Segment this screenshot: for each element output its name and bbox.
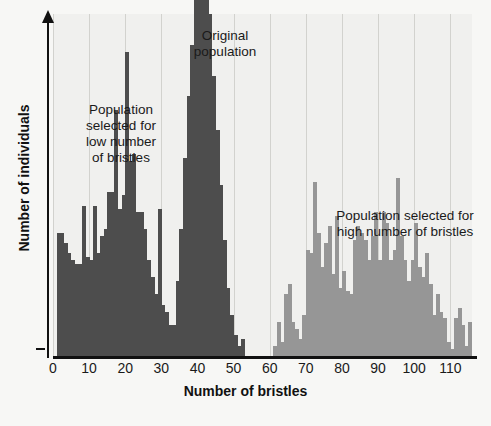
x-tick-label-80: 80 [334,360,350,376]
x-tick-label-90: 90 [370,360,386,376]
x-tick-label-110: 110 [439,360,461,376]
bar [241,339,245,356]
gridline-x-50 [234,14,235,356]
y-axis-arrow-head [42,10,54,23]
plot-area [53,14,472,356]
x-tick-label-50: 50 [226,360,242,376]
gridline-x-110 [450,14,451,356]
gridline-x-60 [270,14,271,356]
annotation-original-population: Original population [163,28,287,60]
bar [468,322,472,356]
x-tick-label-0: 0 [49,360,57,376]
x-tick-label-70: 70 [298,360,314,376]
x-tick-label-100: 100 [403,360,426,376]
x-tick-label-20: 20 [117,360,133,376]
x-axis-title: Number of bristles [0,383,491,399]
gridline-x-0 [53,14,54,356]
x-tick-label-60: 60 [262,360,278,376]
annotation-low-selected-population: Population selected for low number of br… [60,102,182,166]
y-axis-title: Number of individuals [16,68,32,288]
x-tick-label-40: 40 [190,360,206,376]
bristle-number-histogram-figure: 0102030405060708090100110 Number of bris… [0,0,491,426]
x-tick-label-10: 10 [81,360,97,376]
x-tick-label-30: 30 [154,360,170,376]
y-axis-line [47,20,49,358]
y-axis-origin-tick [36,348,45,350]
annotation-high-selected-population: Population selected for high number of b… [320,208,490,240]
x-axis-line [53,356,477,359]
